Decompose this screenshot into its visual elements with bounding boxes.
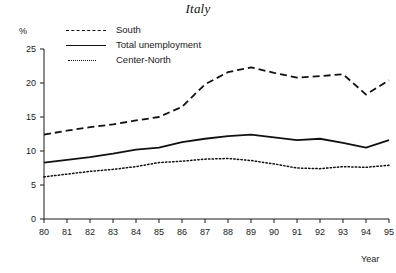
x-axis-tick-label: 89 [246,227,256,237]
x-axis-tick-label: 86 [177,227,187,237]
x-axis-tick-label: 94 [361,227,371,237]
x-axis-tick-label: 88 [223,227,233,237]
y-axis-tick-label: 15 [26,112,36,122]
x-axis-tick-label: 95 [384,227,394,237]
series-line-south [44,67,389,134]
x-axis-tick-label: 81 [62,227,72,237]
x-axis-title: Year [361,254,379,264]
y-axis-tick-label: 10 [26,146,36,156]
x-axis-tick-label: 90 [269,227,279,237]
x-axis-tick-label: 85 [154,227,164,237]
plot-area: 0510152025808182838485868788899091929394… [0,0,396,273]
x-axis-tick-label: 80 [39,227,49,237]
x-axis-tick-label: 87 [200,227,210,237]
x-axis-tick-label: 82 [85,227,95,237]
y-axis-tick-label: 25 [26,44,36,54]
x-axis-tick-label: 93 [338,227,348,237]
x-axis-tick-label: 84 [131,227,141,237]
y-axis-tick-label: 20 [26,78,36,88]
series-line-center-north [44,158,389,176]
x-axis-tick-label: 92 [315,227,325,237]
x-axis-tick-label: 91 [292,227,302,237]
y-axis-tick-label: 5 [31,180,36,190]
x-axis-tick-label: 83 [108,227,118,237]
chart-container: Italy % South Total unemployment Center-… [0,0,396,273]
y-axis-tick-label: 0 [31,214,36,224]
